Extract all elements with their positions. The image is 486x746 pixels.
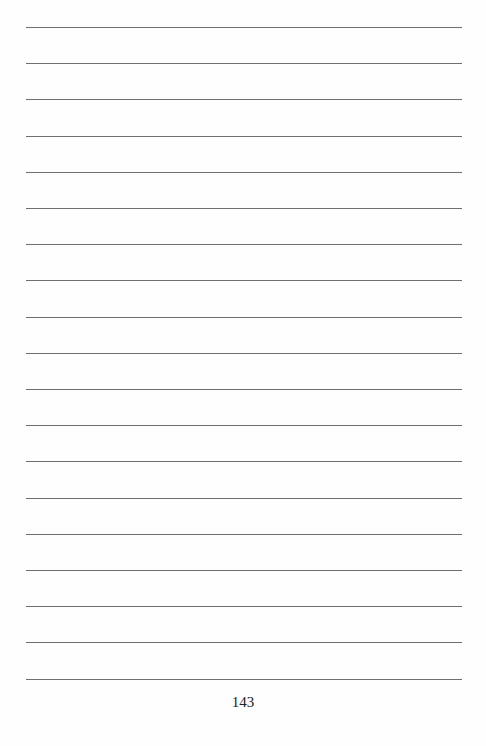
ruled-line <box>26 63 462 64</box>
ruled-line <box>26 570 462 571</box>
ruled-line <box>26 389 462 390</box>
ruled-line <box>26 534 462 535</box>
ruled-line <box>26 498 462 499</box>
ruled-line <box>26 425 462 426</box>
ruled-line <box>26 172 462 173</box>
ruled-line <box>26 461 462 462</box>
ruled-line <box>26 244 462 245</box>
ruled-line <box>26 642 462 643</box>
page-number: 143 <box>0 694 486 711</box>
ruled-line <box>26 280 462 281</box>
ruled-line <box>26 353 462 354</box>
notebook-page: 143 <box>0 0 486 746</box>
ruled-line <box>26 606 462 607</box>
ruled-line <box>26 208 462 209</box>
ruled-line <box>26 317 462 318</box>
ruled-line <box>26 99 462 100</box>
ruled-line <box>26 136 462 137</box>
ruled-line <box>26 679 462 680</box>
ruled-line <box>26 27 462 28</box>
